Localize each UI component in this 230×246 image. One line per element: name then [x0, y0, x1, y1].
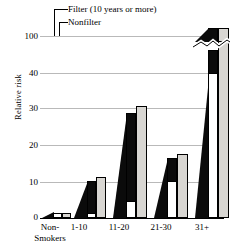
bar-group-1-10 — [74, 28, 112, 218]
y-axis-title: Relative risk — [13, 51, 23, 143]
group-depth-wedge — [195, 78, 209, 218]
bar-group-21-30 — [154, 28, 194, 218]
legend-leader-nonfilter-horizontal — [59, 22, 68, 23]
y-tick-100: 100 — [4, 32, 38, 41]
bar-nonsmokers-filter — [53, 213, 62, 218]
bar-31plus-nonfilter — [218, 36, 229, 218]
x-label-21-30: 21-30 — [138, 222, 184, 233]
bar-31plus-filter — [208, 73, 218, 218]
group-depth-wedge — [154, 158, 168, 218]
bar-nonsmokers-nonfilter — [62, 213, 71, 218]
x-axis-labels: Non- Smokers 1-10 11-20 21-30 31+ — [0, 220, 230, 246]
legend-leader-filter-horizontal — [54, 9, 68, 10]
legend-label-nonfilter: Nonfilter — [68, 17, 101, 27]
x-label-31-plus: 31+ — [180, 222, 224, 233]
axis-break-zigzag — [193, 38, 230, 50]
bar-21-30-nonfilter — [177, 154, 188, 218]
axis-baseline — [40, 218, 224, 219]
plot-area — [40, 28, 224, 218]
bar-1-10-nonfilter — [96, 177, 106, 218]
group-depth-wedge — [113, 113, 127, 218]
bar-1-10-filter — [87, 213, 96, 218]
x-label-non-smokers-line2: Smokers — [34, 233, 66, 243]
bar-group-31-plus — [195, 28, 230, 218]
chart-root: Filter (10 years or more) Nonfilter 100 … — [0, 0, 230, 246]
group-depth-wedge — [74, 181, 88, 218]
bar-group-11-20 — [113, 28, 153, 218]
legend-label-filter: Filter (10 years or more) — [68, 4, 156, 14]
bar-group-non-smokers — [40, 28, 74, 218]
y-tick-10: 10 — [4, 178, 38, 187]
bar-11-20-filter — [126, 201, 136, 218]
bar-21-30-filter — [167, 181, 177, 218]
bar-11-20-nonfilter — [136, 106, 147, 218]
x-label-11-20: 11-20 — [96, 222, 142, 233]
